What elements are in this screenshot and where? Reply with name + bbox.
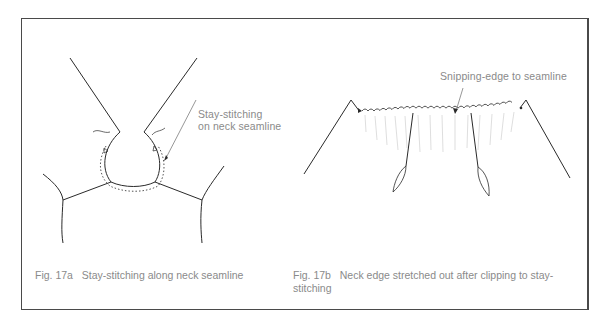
- thread-tail-left: [93, 131, 110, 133]
- annotation-stay-stitching: Stay-stitching on neck seamline: [198, 108, 281, 132]
- caption-number-17b: Fig. 17b: [293, 269, 331, 281]
- edge-marker-right-icon: [520, 107, 523, 110]
- caption-text-17b-line2: stitching: [293, 282, 583, 295]
- annotation-line-2: on neck seamline: [198, 120, 281, 132]
- caption-fig-17a: Fig. 17a Stay-stitching along neck seaml…: [35, 269, 243, 282]
- arrowhead-b-icon: [453, 108, 458, 114]
- caption-text-17b-line1: Neck edge stretched out after clipping t…: [340, 269, 554, 281]
- clipped-edge-scallops: [362, 101, 512, 111]
- edge-marker-left-icon: [358, 108, 362, 113]
- stay-stitching-dotted-line: [100, 146, 164, 191]
- fig-17a-drawing: [43, 58, 224, 243]
- caption-text-17a: Stay-stitching along neck seamline: [82, 269, 244, 281]
- caption-line-1: Fig. 17b Neck edge stretched out after c…: [293, 269, 583, 282]
- annotation-snipping-edge: Snipping-edge to seamline: [440, 70, 567, 82]
- caption-fig-17b: Fig. 17b Neck edge stretched out after c…: [293, 269, 583, 295]
- fig-17b-drawing: [304, 100, 570, 178]
- caption-number-17a: Fig. 17a: [35, 269, 73, 281]
- leader-arrow-a: [166, 100, 196, 158]
- pin-right-icon: [471, 113, 489, 196]
- annotation-line-1: Stay-stitching: [198, 108, 281, 120]
- leader-arrow-b: [456, 88, 463, 111]
- thread-tail-right: [152, 128, 165, 135]
- clip-marks: [365, 112, 514, 152]
